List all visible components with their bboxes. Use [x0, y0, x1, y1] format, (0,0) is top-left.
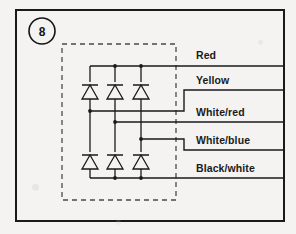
junction-dot-bottom-c2 — [113, 176, 117, 180]
junction-dot-white-blue-c3 — [139, 137, 143, 141]
schematic-svg: Red Yellow White/red White/blue Black/wh… — [0, 0, 296, 234]
wire-label-white-blue: White/blue — [196, 134, 250, 146]
junction-dot-bottom-c3 — [139, 176, 143, 180]
junction-dot-yellow-c1 — [88, 109, 92, 113]
wire-label-red: Red — [196, 49, 216, 61]
wire-label-white-red: White/red — [196, 106, 245, 118]
junction-dot-white-red-c2 — [113, 120, 117, 124]
junction-dot-top-c2 — [113, 64, 117, 68]
junction-dot-top-c3 — [139, 64, 143, 68]
wire-label-yellow: Yellow — [196, 74, 230, 86]
badge-number: 8 — [39, 25, 46, 39]
figure-canvas: Red Yellow White/red White/blue Black/wh… — [0, 0, 296, 234]
wire-label-black-white: Black/white — [196, 162, 255, 174]
